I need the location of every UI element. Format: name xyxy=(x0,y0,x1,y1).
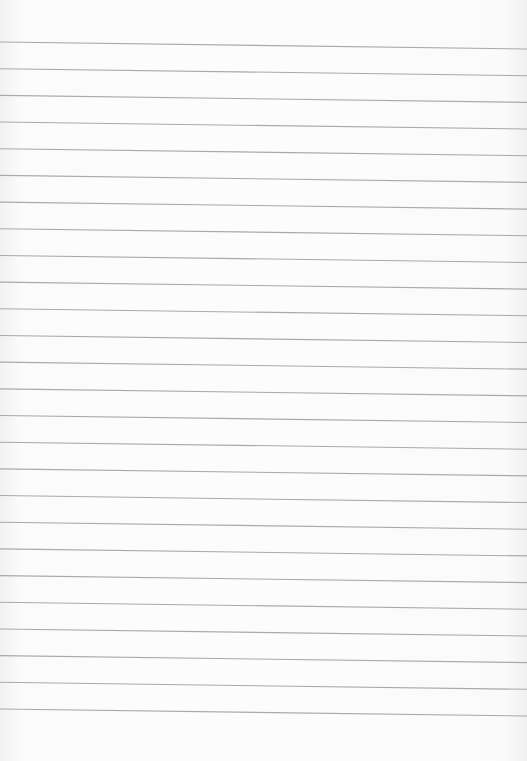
ruled-line xyxy=(0,549,527,556)
ruled-line xyxy=(0,709,527,716)
ruled-line xyxy=(0,309,527,316)
ruled-line xyxy=(0,576,527,583)
ruled-line xyxy=(0,95,527,102)
ruled-line xyxy=(0,255,527,262)
ruled-line xyxy=(0,629,527,636)
ruled-line xyxy=(0,149,527,156)
ruled-line xyxy=(0,69,527,76)
ruled-line xyxy=(0,122,527,129)
ruled-line xyxy=(0,416,527,423)
ruled-line xyxy=(0,202,527,209)
ruled-line xyxy=(0,496,527,503)
ruled-line xyxy=(0,362,527,369)
ruled-line xyxy=(0,469,527,476)
ruled-line xyxy=(0,522,527,529)
lined-paper-sheet xyxy=(0,0,527,761)
ruled-line xyxy=(0,229,527,236)
ruled-line xyxy=(0,42,527,49)
ruled-line xyxy=(0,656,527,663)
ruled-line xyxy=(0,282,527,289)
ruled-line xyxy=(0,335,527,342)
ruled-lines xyxy=(0,0,527,761)
ruled-line xyxy=(0,602,527,609)
ruled-line xyxy=(0,389,527,396)
ruled-line xyxy=(0,442,527,449)
ruled-line xyxy=(0,175,527,182)
ruled-line xyxy=(0,682,527,689)
